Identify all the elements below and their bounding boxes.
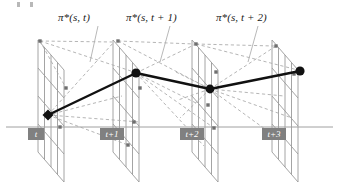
candidate-transition-5 xyxy=(40,41,112,42)
time-label-t: t xyxy=(28,128,44,140)
leader-lines-group xyxy=(90,26,258,62)
grid-node-10 xyxy=(212,126,215,129)
grid-node-1 xyxy=(64,86,67,89)
candidate-transition-2 xyxy=(48,96,122,115)
candidate-transition-10 xyxy=(136,73,200,105)
candidate-transition-8 xyxy=(136,44,196,73)
trajectory-node-1 xyxy=(131,68,140,77)
plane-t xyxy=(38,40,64,182)
trajectory-node-3 xyxy=(295,66,304,75)
time-label-t1: t+1 xyxy=(100,128,124,140)
time-label-t2: t+2 xyxy=(180,128,204,140)
grid-node-6 xyxy=(126,143,129,146)
time-label-t3: t+3 xyxy=(262,128,286,140)
trajectory-segment-2 xyxy=(210,71,300,89)
trajectory-node-2 xyxy=(206,85,215,94)
trajectory-group xyxy=(43,66,305,120)
policy-label-t: π*(s, t) xyxy=(58,11,90,23)
grid-node-9 xyxy=(206,103,209,106)
policy-leader-line-1 xyxy=(160,26,170,62)
plane-t3 xyxy=(272,40,298,182)
grid-node-5 xyxy=(132,120,135,123)
grid-node-7 xyxy=(194,42,197,45)
grid-node-2 xyxy=(58,125,61,128)
policy-leader-line-2 xyxy=(248,26,258,62)
planes-group xyxy=(38,40,298,182)
grid-node-11 xyxy=(274,44,277,47)
plane-t2 xyxy=(192,40,218,182)
mdp-trajectory-svg xyxy=(0,0,339,185)
grid-nodes-group xyxy=(38,39,295,146)
candidate-transition-24 xyxy=(180,89,210,118)
policy-label-t1: π*(s, t + 1) xyxy=(126,11,177,23)
grid-node-4 xyxy=(138,86,141,89)
grid-node-0 xyxy=(38,39,41,42)
candidate-transition-7 xyxy=(40,41,66,88)
policy-leader-line-0 xyxy=(90,26,98,62)
candidate-transition-18 xyxy=(210,89,292,118)
diagram-canvas: π*(s, t) π*(s, t + 1) π*(s, t + 2) t t+1… xyxy=(0,0,339,185)
plane-t1 xyxy=(113,40,139,182)
grid-node-8 xyxy=(214,70,217,73)
policy-label-t2: π*(s, t + 2) xyxy=(216,11,267,23)
candidate-transition-20 xyxy=(196,44,274,46)
candidate-transition-13 xyxy=(118,41,194,44)
grid-node-3 xyxy=(116,39,119,42)
candidate-transitions-group xyxy=(40,41,300,146)
